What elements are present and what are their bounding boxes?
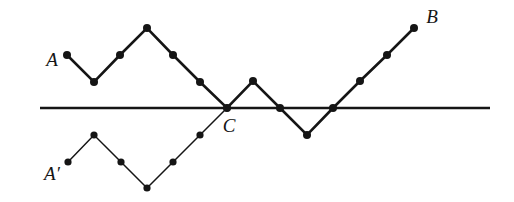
- path-main-vertex-dot: [63, 51, 71, 59]
- path-main-vertex-dot: [383, 51, 391, 59]
- label-a: A: [44, 49, 58, 70]
- path-main-vertex-dot: [90, 78, 98, 86]
- path-main-vertex-dot: [276, 104, 284, 112]
- path-main-vertex-dot: [356, 77, 364, 85]
- path-main-vertex-dot: [143, 24, 151, 32]
- reflection-principle-diagram: ABCA′: [0, 0, 514, 202]
- path-main-vertex-dot: [196, 78, 204, 86]
- path-main-vertex-dot: [116, 51, 124, 59]
- path-reflected-vertex-dot: [169, 158, 176, 165]
- path-reflected-vertex-dot: [143, 184, 150, 191]
- label-b: B: [426, 6, 438, 27]
- label-c: C: [223, 115, 236, 136]
- path-reflected-vertex-dot: [196, 131, 203, 138]
- figure-background: [0, 0, 514, 202]
- path-main-vertex-dot: [249, 77, 257, 85]
- path-reflected-vertex-dot: [90, 131, 97, 138]
- path-main-vertex-dot: [329, 104, 337, 112]
- path-main-vertex-dot: [169, 51, 177, 59]
- path-main-vertex-dot: [223, 104, 231, 112]
- path-main-vertex-dot: [303, 131, 311, 139]
- path-reflected-vertex-dot: [64, 158, 71, 165]
- label-ap: A′: [42, 163, 61, 184]
- path-reflected-vertex-dot: [117, 158, 124, 165]
- path-main-vertex-dot: [410, 24, 418, 32]
